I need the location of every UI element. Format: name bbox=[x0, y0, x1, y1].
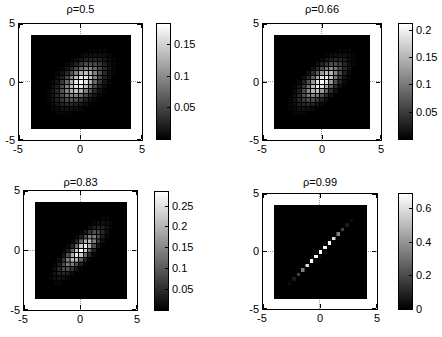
axis-tick bbox=[136, 305, 137, 309]
plot-axes bbox=[18, 23, 143, 141]
axis-tick bbox=[19, 139, 23, 140]
colorbar-tick bbox=[409, 242, 412, 243]
axis-tick bbox=[80, 305, 81, 309]
axis-tick bbox=[24, 309, 28, 310]
colorbar-tick-label: 0.4 bbox=[416, 237, 431, 248]
axis-tick bbox=[19, 24, 23, 25]
axis-tick bbox=[263, 139, 267, 140]
axis-tick bbox=[322, 135, 323, 139]
axis-tick bbox=[141, 135, 142, 139]
axis-tick bbox=[372, 251, 376, 252]
plot-axes bbox=[23, 190, 138, 311]
x-tick-label: 5 bbox=[374, 313, 380, 324]
plot-title: ρ=0.99 bbox=[303, 176, 337, 188]
x-tick-label: 0 bbox=[317, 313, 323, 324]
axis-tick bbox=[132, 250, 136, 251]
axis-tick bbox=[376, 304, 377, 308]
axis-tick bbox=[263, 251, 267, 252]
axis-tick bbox=[320, 194, 321, 198]
plot-axes bbox=[262, 193, 378, 310]
axis-tick bbox=[376, 82, 380, 83]
heatmap-image bbox=[274, 205, 367, 299]
colorbar-tick bbox=[409, 208, 412, 209]
colorbar-tick-label: 0 bbox=[416, 304, 422, 315]
heatmap-image bbox=[274, 35, 370, 129]
axis-tick bbox=[263, 308, 267, 309]
y-tick-label: 0 bbox=[244, 246, 259, 257]
axis-tick bbox=[263, 24, 267, 25]
axis-tick bbox=[80, 191, 81, 195]
x-tick-label: -5 bbox=[257, 313, 267, 324]
axis-tick bbox=[320, 304, 321, 308]
colorbar bbox=[398, 193, 413, 310]
plot-axes bbox=[262, 23, 382, 141]
axis-tick bbox=[141, 24, 142, 28]
axis-tick bbox=[24, 250, 28, 251]
axis-tick bbox=[380, 135, 381, 139]
colorbar-tick-label: 0.6 bbox=[416, 203, 431, 214]
axis-tick bbox=[80, 24, 81, 28]
heatmap-image bbox=[31, 35, 131, 129]
axis-tick bbox=[132, 309, 136, 310]
axis-tick bbox=[24, 191, 28, 192]
axis-tick bbox=[136, 191, 137, 195]
colorbar-tick bbox=[409, 309, 412, 310]
axis-tick bbox=[372, 308, 376, 309]
axis-tick bbox=[376, 139, 380, 140]
axis-tick bbox=[322, 24, 323, 28]
axis-tick bbox=[137, 139, 141, 140]
heatmap-image bbox=[35, 202, 127, 299]
colorbar-tick-label: 0.2 bbox=[416, 270, 431, 281]
axis-tick bbox=[80, 135, 81, 139]
colorbar-tick bbox=[409, 275, 412, 276]
axis-tick bbox=[137, 82, 141, 83]
axis-tick bbox=[19, 82, 23, 83]
axis-tick bbox=[263, 82, 267, 83]
y-tick-label: 5 bbox=[244, 188, 259, 199]
axis-tick bbox=[263, 194, 267, 195]
axis-tick bbox=[376, 194, 377, 198]
axis-tick bbox=[380, 24, 381, 28]
figure: ρ=0.5 50-5-5050.150.10.05 ρ=0.66 50-5-50… bbox=[0, 0, 442, 337]
